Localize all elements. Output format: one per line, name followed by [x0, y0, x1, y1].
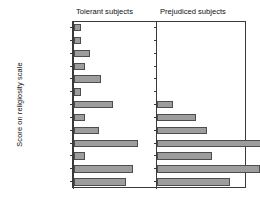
- panel-title-tolerant: Tolerant subjects: [76, 7, 133, 16]
- bar-tolerant: [74, 24, 81, 31]
- y-tick: [70, 117, 73, 118]
- bar-row: 11/13: [73, 150, 245, 163]
- bar-prejudiced: [157, 178, 230, 185]
- bar-tolerant: [74, 165, 133, 172]
- y-tick: [70, 168, 73, 169]
- bar-prejudiced: [157, 140, 260, 147]
- bar-prejudiced: [157, 152, 212, 159]
- bar-tolerant: [74, 75, 101, 82]
- y-tick: [70, 104, 73, 105]
- y-tick-right: [154, 78, 157, 79]
- bar-row: −13/−11: [73, 48, 245, 61]
- bar-row: −16/−14: [73, 35, 245, 48]
- bar-tolerant: [74, 88, 81, 95]
- bar-tolerant: [74, 37, 81, 44]
- y-axis-title: Score on religiosity scale: [15, 30, 24, 180]
- bar-row: −1/+1: [73, 99, 245, 112]
- bar-tolerant: [74, 152, 85, 159]
- y-tick: [70, 40, 73, 41]
- bar-tolerant: [74, 140, 138, 147]
- y-tick-right: [154, 40, 157, 41]
- bar-tolerant: [74, 63, 85, 70]
- y-tick: [70, 181, 73, 182]
- bar-tolerant: [74, 114, 85, 121]
- bar-tolerant: [74, 178, 126, 185]
- bar-tolerant: [74, 50, 90, 57]
- y-tick-right: [154, 66, 157, 67]
- y-tick: [70, 143, 73, 144]
- bar-row: 17/19: [73, 176, 245, 189]
- bar-row: −10/−8: [73, 61, 245, 74]
- y-tick: [70, 53, 73, 54]
- y-tick: [70, 130, 73, 131]
- y-tick: [70, 27, 73, 28]
- y-tick: [70, 66, 73, 67]
- bar-row: 8/10: [73, 138, 245, 151]
- figure: Score on religiosity scale Tolerant subj…: [0, 0, 260, 203]
- y-tick-right: [154, 27, 157, 28]
- bar-prejudiced: [157, 127, 207, 134]
- bar-prejudiced: [157, 114, 196, 121]
- bar-row: −7/−5: [73, 73, 245, 86]
- plot-frame: −19/−17−16/−14−13/−11−10/−8−7/−5−4/−2−1/…: [72, 21, 246, 188]
- bar-row: −19/−17: [73, 22, 245, 35]
- bar-tolerant: [74, 101, 113, 108]
- bar-row: 14/16: [73, 163, 245, 176]
- bar-prejudiced: [157, 101, 173, 108]
- y-tick: [70, 155, 73, 156]
- y-tick: [70, 78, 73, 79]
- bar-row: 2/4: [73, 112, 245, 125]
- bar-prejudiced: [157, 165, 260, 172]
- y-tick-right: [154, 91, 157, 92]
- bar-row: −4/−2: [73, 86, 245, 99]
- panel-title-prejudiced: Prejudiced subjects: [160, 7, 226, 16]
- y-tick: [70, 91, 73, 92]
- bar-tolerant: [74, 127, 99, 134]
- bar-row: 5/7: [73, 125, 245, 138]
- y-tick-right: [154, 53, 157, 54]
